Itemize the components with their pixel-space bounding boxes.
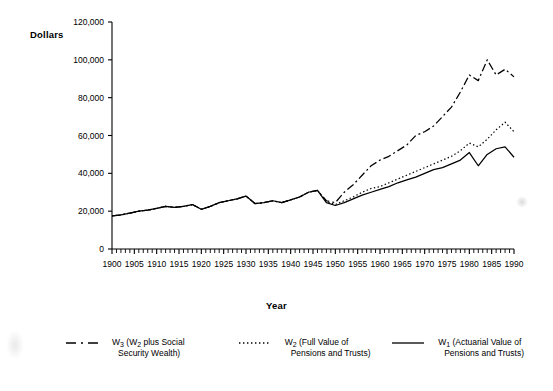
legend-item-w3: W3 (W2 plus Social Security Wealth) xyxy=(64,337,237,359)
legend-label-w1: W1 (Actuarial Value of Pensions and Trus… xyxy=(436,337,524,359)
svg-text:1920: 1920 xyxy=(192,259,211,269)
legend-label-w3: W3 (W2 plus Social Security Wealth) xyxy=(110,337,185,359)
svg-text:120,000: 120,000 xyxy=(73,17,104,27)
svg-text:1930: 1930 xyxy=(237,259,256,269)
svg-text:60,000: 60,000 xyxy=(78,131,104,141)
legend-sample-solid-icon xyxy=(390,337,436,348)
svg-text:1905: 1905 xyxy=(125,259,144,269)
svg-text:1915: 1915 xyxy=(170,259,189,269)
svg-text:1925: 1925 xyxy=(214,259,233,269)
chart-plot-area: 020,00040,00060,00080,000100,000120,0001… xyxy=(0,0,553,391)
chart-axes xyxy=(108,22,514,254)
svg-text:1980: 1980 xyxy=(460,259,479,269)
svg-text:20,000: 20,000 xyxy=(78,206,104,216)
svg-text:1965: 1965 xyxy=(393,259,412,269)
legend-sample-dotted-icon xyxy=(237,337,283,348)
scan-artifact-left xyxy=(6,330,24,360)
svg-text:1940: 1940 xyxy=(281,259,300,269)
svg-text:1955: 1955 xyxy=(348,259,367,269)
svg-text:1950: 1950 xyxy=(326,259,345,269)
svg-text:1900: 1900 xyxy=(103,259,122,269)
chart-tick-labels: 020,00040,00060,00080,000100,000120,0001… xyxy=(73,17,523,269)
svg-text:100,000: 100,000 xyxy=(73,55,104,65)
chart-legend: W3 (W2 plus Social Security Wealth) W2 (… xyxy=(64,337,534,359)
svg-text:1910: 1910 xyxy=(147,259,166,269)
x-axis-label: Year xyxy=(0,300,553,311)
svg-text:1935: 1935 xyxy=(259,259,278,269)
legend-item-w1: W1 (Actuarial Value of Pensions and Trus… xyxy=(390,337,534,359)
chart-figure: Dollars 020,00040,00060,00080,000100,000… xyxy=(0,0,553,391)
legend-sample-dash-dot-icon xyxy=(64,337,110,348)
legend-label-w2: W2 (Full Value of Pensions and Trusts) xyxy=(283,337,371,359)
svg-text:1960: 1960 xyxy=(371,259,390,269)
svg-text:40,000: 40,000 xyxy=(78,168,104,178)
legend-item-w2: W2 (Full Value of Pensions and Trusts) xyxy=(237,337,390,359)
chart-series-lines xyxy=(112,60,514,216)
scan-artifact xyxy=(516,196,528,208)
svg-text:1990: 1990 xyxy=(505,259,524,269)
svg-text:1945: 1945 xyxy=(304,259,323,269)
svg-text:1970: 1970 xyxy=(415,259,434,269)
svg-text:80,000: 80,000 xyxy=(78,93,104,103)
svg-text:1975: 1975 xyxy=(438,259,457,269)
svg-text:0: 0 xyxy=(99,244,104,254)
svg-text:1985: 1985 xyxy=(482,259,501,269)
